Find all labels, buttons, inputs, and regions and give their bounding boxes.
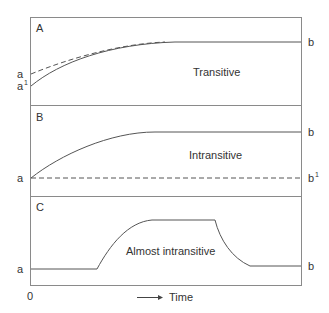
panel-b: B a b b 1 Intransitive: [17, 111, 319, 184]
panel-c-title: Almost intransitive: [126, 245, 215, 257]
panel-a-label-a1-sup: 1: [24, 79, 28, 86]
panel-a-dashed-curve: [31, 42, 165, 74]
panel-c-letter: C: [36, 201, 44, 213]
panel-c-label-b: b: [308, 260, 314, 272]
panel-a: A a a 1 b Transitive: [17, 22, 314, 92]
panel-b-label-b: b: [308, 126, 314, 138]
panel-a-label-a: a: [17, 68, 24, 80]
panel-b-title: Intransitive: [189, 149, 242, 161]
x-axis-label: Time: [169, 291, 193, 303]
panel-b-letter: B: [36, 111, 43, 123]
panel-a-label-b: b: [308, 36, 314, 48]
panel-b-label-a: a: [17, 172, 24, 184]
panel-a-title: Transitive: [193, 66, 240, 78]
x-axis-origin-label: 0: [27, 290, 33, 302]
time-arrow-icon: [137, 295, 163, 300]
state-transition-diagram: A a a 1 b Transitive B a b b 1 Intransit…: [0, 0, 329, 313]
panel-b-label-b1: b: [308, 172, 314, 184]
panel-b-label-b1-sup: 1: [315, 171, 319, 178]
panel-a-label-a1: a: [17, 80, 24, 92]
panel-c-label-a: a: [17, 263, 24, 275]
panel-a-letter: A: [36, 22, 44, 34]
panel-c: C a b Almost intransitive: [17, 201, 314, 275]
panel-b-solid-curve: [31, 132, 301, 178]
panel-a-solid-curve: [31, 42, 301, 86]
